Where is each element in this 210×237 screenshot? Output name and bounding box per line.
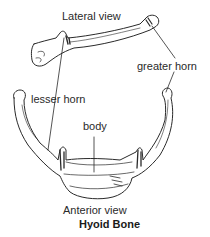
anterior-view-label: Anterior view <box>63 204 127 216</box>
hyoid-illustration <box>0 0 210 237</box>
lesser-horn-label: lesser horn <box>31 93 85 105</box>
body-label: body <box>83 120 107 132</box>
lateral-view-bone <box>31 15 158 66</box>
figure-title: Hyoid Bone <box>79 218 140 230</box>
lateral-view-label: Lateral view <box>62 10 121 22</box>
greater-horn-label: greater horn <box>137 60 197 72</box>
greater-horn-leader-line-lateral <box>152 26 175 58</box>
